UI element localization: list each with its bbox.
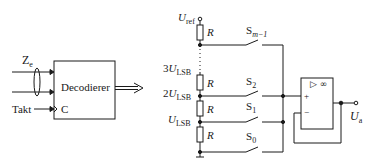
switch-1 xyxy=(246,117,258,122)
resistor-label: R xyxy=(207,130,214,141)
resistor-label: R xyxy=(207,27,214,38)
input-bus-label: Ze xyxy=(22,54,33,69)
switch-label-2: S2 xyxy=(246,76,256,90)
resistor-label: R xyxy=(207,104,214,115)
tap-2ulsb-label: 2ULSB xyxy=(163,88,191,102)
clock-label: Takt xyxy=(12,104,31,115)
opamp-symbol-icon: ▷ ∞ xyxy=(310,80,327,89)
clock-pin-label: C xyxy=(61,104,68,115)
output-voltage-label: Ua xyxy=(350,110,362,125)
opamp-plus-label: + xyxy=(304,92,309,101)
switch-label-1: S1 xyxy=(246,101,256,115)
tap-3ulsb-label: 3ULSB xyxy=(163,63,191,77)
output-terminal-icon xyxy=(354,101,358,105)
decoder-title: Decodierer xyxy=(61,82,110,93)
switch-label-m-1: Sm−1 xyxy=(246,25,267,39)
resistor-2 xyxy=(197,75,203,90)
resistor-1 xyxy=(197,101,203,116)
opamp-minus-label: − xyxy=(304,108,309,117)
ref-voltage-label: Uref xyxy=(178,12,195,26)
switch-label-0: S0 xyxy=(246,131,256,145)
resistor-0 xyxy=(197,127,203,142)
resistor-label: R xyxy=(207,78,214,89)
tap-ulsb-label: ULSB xyxy=(168,114,191,128)
switch-m-1 xyxy=(246,40,258,45)
switch-0 xyxy=(246,147,258,152)
switch-2 xyxy=(246,91,258,96)
resistor-top xyxy=(197,25,203,40)
